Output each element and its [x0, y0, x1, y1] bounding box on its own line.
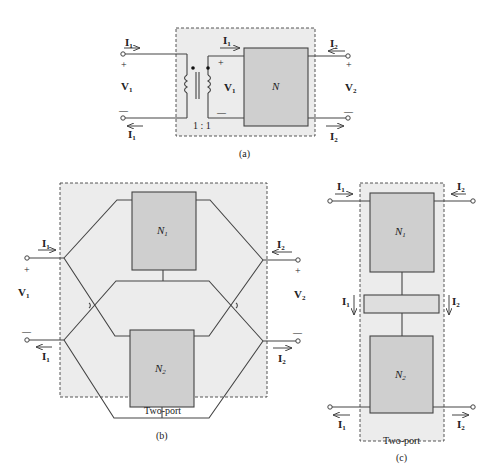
svg-text:I2: I2 [277, 238, 285, 252]
svg-text:I1: I1 [42, 237, 50, 251]
port1-top-terminal [328, 199, 332, 203]
caption-a: (a) [239, 148, 250, 160]
svg-text:V1: V1 [18, 286, 30, 300]
svg-text:I1: I1 [342, 295, 350, 309]
svg-text:I1: I1 [125, 36, 133, 50]
svg-text:I2: I2 [278, 352, 286, 366]
port2-top-terminal [471, 199, 475, 203]
panel-b: I1 + V1 — I1 I2 + V2 — I2 N1 N2 Two-port… [18, 183, 306, 442]
two-port-label: Two-port [144, 405, 181, 416]
svg-text:V2: V2 [345, 81, 357, 95]
port2-bottom-terminal [471, 405, 475, 409]
svg-text:V2: V2 [294, 288, 306, 302]
svg-text:—: — [216, 107, 227, 117]
network-n-label: N [271, 80, 280, 92]
panel-c: I1 I2 I1 I2 I1 I2 N1 N2 Two-port (c) [328, 180, 475, 464]
port1-top-terminal [121, 52, 125, 56]
turns-ratio: 1 : 1 [193, 120, 211, 131]
svg-text:I1: I1 [337, 180, 345, 194]
svg-text:I2: I2 [452, 295, 460, 309]
svg-text:—: — [343, 106, 354, 116]
two-port-interconnection-figure: N I1 + V1 — I1 I1 + V1 — 1 : 1 I2 + V2 —… [0, 0, 497, 473]
port2-top-terminal [346, 54, 350, 58]
coupling-element-box [364, 295, 439, 313]
panel-a: N I1 + V1 — I1 I1 + V1 — 1 : 1 I2 + V2 —… [118, 28, 357, 160]
svg-text:I2: I2 [330, 130, 338, 144]
svg-text:+: + [346, 59, 352, 70]
caption-c: (c) [396, 452, 407, 464]
two-port-label: Two-port [383, 435, 420, 446]
svg-text:—: — [118, 105, 129, 115]
svg-text:I2: I2 [330, 37, 338, 51]
port1-bottom-terminal [121, 116, 125, 120]
port2-bottom-terminal [296, 339, 300, 343]
svg-text:+: + [121, 59, 127, 70]
svg-text:I1: I1 [42, 350, 50, 364]
dot-secondary [206, 66, 210, 70]
svg-text:I1: I1 [338, 418, 346, 432]
svg-text:—: — [292, 327, 303, 337]
caption-b: (b) [156, 430, 168, 442]
svg-text:+: + [24, 264, 30, 275]
svg-text:I2: I2 [457, 418, 465, 432]
port2-top-terminal [296, 258, 300, 262]
svg-text:I1: I1 [128, 128, 136, 142]
port2-bottom-terminal [346, 116, 350, 120]
svg-text:+: + [218, 57, 224, 68]
svg-text:V1: V1 [121, 80, 133, 94]
port1-top-terminal [25, 256, 29, 260]
svg-text:I2: I2 [457, 180, 465, 194]
port1-bottom-terminal [25, 338, 29, 342]
dot-primary [191, 66, 195, 70]
svg-text:—: — [21, 326, 32, 336]
port1-bottom-terminal [328, 405, 332, 409]
svg-text:+: + [295, 265, 301, 276]
